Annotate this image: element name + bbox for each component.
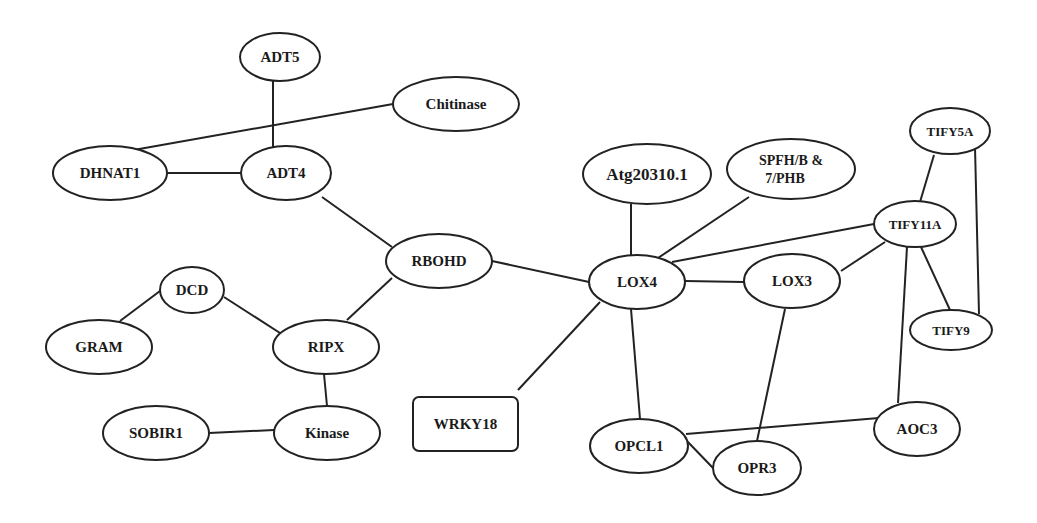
- node-label: SOBIR1: [129, 425, 183, 441]
- node-label: TIFY5A: [927, 124, 975, 139]
- node-lox3: LOX3: [744, 254, 840, 308]
- edge-lox4-opcl1: [631, 309, 640, 419]
- node-kinase: Kinase: [274, 406, 380, 460]
- edge-lox3-opr3: [757, 309, 785, 441]
- node-label: LOX3: [772, 273, 812, 289]
- node-aoc3: AOC3: [874, 402, 960, 456]
- node-wrky18: WRKY18: [413, 397, 518, 451]
- edge-rbohd-lox4: [492, 261, 589, 282]
- node-dhnat1: DHNAT1: [53, 146, 167, 200]
- node-adt5: ADT5: [240, 33, 320, 81]
- node-sobir1: SOBIR1: [103, 406, 209, 460]
- node-label-line2: 7/PHB: [765, 171, 805, 186]
- node-label: Kinase: [305, 425, 350, 441]
- node-rbohd: RBOHD: [386, 234, 492, 288]
- node-tify9: TIFY9: [910, 310, 992, 350]
- node-label: TIFY9: [932, 323, 970, 338]
- node-adt4: ADT4: [241, 146, 331, 200]
- edge-tify5a-tify9: [975, 147, 979, 314]
- network-diagram: ADT5ChitinaseDHNAT1ADT4RBOHDDCDGRAMRIPXS…: [0, 0, 1037, 523]
- node-label: Atg20310.1: [606, 165, 688, 184]
- node-label: ADT5: [260, 49, 299, 65]
- edge-sobir1-kinase: [209, 430, 274, 433]
- edge-opcl1-aoc3: [686, 418, 879, 434]
- node-atg20310: Atg20310.1: [583, 144, 711, 204]
- node-opcl1: OPCL1: [590, 419, 688, 473]
- node-shape: [727, 139, 855, 199]
- node-gram: GRAM: [46, 320, 152, 374]
- edge-lox3-tify11a: [841, 242, 885, 271]
- node-label: DHNAT1: [80, 165, 141, 181]
- edge-dcd-gram: [120, 291, 160, 321]
- node-lox4: LOX4: [589, 255, 685, 309]
- node-label: ADT4: [266, 165, 306, 181]
- node-ripx: RIPX: [273, 320, 379, 374]
- node-label: DCD: [176, 282, 209, 298]
- edge-wrky18-lox4: [518, 302, 600, 390]
- edge-rbohd-ripx: [347, 278, 392, 320]
- edge-ripx-kinase: [324, 374, 327, 406]
- node-label: OPCL1: [614, 438, 663, 454]
- node-label: TIFY11A: [889, 217, 942, 232]
- node-opr3: OPR3: [713, 441, 801, 495]
- edge-dcd-ripx: [224, 297, 280, 333]
- edge-tify5a-tify11a: [920, 155, 934, 202]
- node-label: AOC3: [897, 421, 938, 437]
- edge-tify11a-aoc3: [898, 247, 907, 403]
- edge-chitinase-dhnat1: [128, 104, 393, 151]
- edge-tify11a-tify9: [921, 247, 950, 310]
- node-dcd: DCD: [160, 267, 224, 313]
- node-label: SPFH/B &: [759, 153, 823, 168]
- node-label: Chitinase: [426, 96, 487, 112]
- edge-spfh-lox4: [658, 197, 749, 258]
- node-label: RIPX: [308, 339, 345, 355]
- node-label: GRAM: [75, 339, 123, 355]
- node-tify11a: TIFY11A: [874, 201, 956, 247]
- edge-adt4-rbohd: [322, 197, 392, 247]
- node-chitinase: Chitinase: [393, 77, 519, 131]
- node-label: RBOHD: [411, 253, 466, 269]
- edges-layer: [120, 81, 979, 468]
- edge-opcl1-opr3: [686, 440, 713, 468]
- node-label: OPR3: [737, 460, 776, 476]
- node-label: WRKY18: [434, 416, 497, 432]
- node-spfh: SPFH/B &7/PHB: [727, 139, 855, 199]
- network-graph: ADT5ChitinaseDHNAT1ADT4RBOHDDCDGRAMRIPXS…: [0, 0, 1037, 523]
- edge-lox4-lox3: [685, 281, 744, 282]
- node-label: LOX4: [617, 274, 658, 290]
- node-tify5a: TIFY5A: [910, 108, 990, 154]
